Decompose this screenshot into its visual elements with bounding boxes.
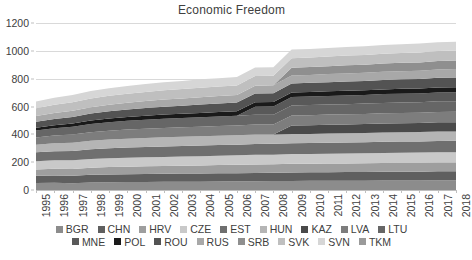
- legend-label-tkm: TKM: [369, 237, 391, 248]
- legend-label-ltu: LTU: [388, 224, 407, 235]
- x-tick-label-2008: 2008: [277, 194, 289, 217]
- x-tick-mark-2016: [419, 190, 420, 193]
- stacked-area-series: [36, 23, 456, 190]
- legend-row-1: BGRCHNHRVCZEESTHUNKAZLVALTU: [56, 224, 407, 235]
- x-tick-mark-2004: [200, 190, 201, 193]
- x-tick-mark-1998: [91, 190, 92, 193]
- legend-swatch-icon-cze: [180, 226, 187, 233]
- x-tick-label-2007: 2007: [259, 194, 271, 217]
- legend-swatch-icon-kaz: [301, 226, 308, 233]
- x-tick-label-2006: 2006: [241, 194, 253, 217]
- x-tick-mark-1995: [36, 190, 37, 193]
- x-tick-label-2013: 2013: [369, 194, 381, 217]
- legend-item-srb[interactable]: SRB: [238, 237, 270, 248]
- x-tick-label-1998: 1998: [95, 194, 107, 217]
- y-tick-label-0: 0: [23, 184, 29, 196]
- y-tick-label-1000: 1000: [6, 45, 29, 57]
- x-tick-label-1996: 1996: [58, 194, 70, 217]
- y-tick-mark-200: [31, 162, 34, 163]
- legend-item-est[interactable]: EST: [220, 224, 250, 235]
- x-tick-mark-2009: [292, 190, 293, 193]
- x-tick-label-2009: 2009: [296, 194, 308, 217]
- legend-item-rus[interactable]: RUS: [197, 237, 229, 248]
- legend-item-pol[interactable]: POL: [114, 237, 145, 248]
- legend-item-mne[interactable]: MNE: [72, 237, 105, 248]
- legend-item-cze[interactable]: CZE: [180, 224, 211, 235]
- x-tick-label-2005: 2005: [223, 194, 235, 217]
- legend-item-rou[interactable]: ROU: [154, 237, 187, 248]
- plot-area: [36, 23, 456, 190]
- y-axis: 020040060080010001200: [0, 23, 34, 190]
- legend-row-2: MNEPOLROURUSSRBSVKSVNTKM: [72, 237, 391, 248]
- x-tick-mark-2015: [401, 190, 402, 193]
- legend-swatch-icon-hun: [260, 226, 267, 233]
- x-tick-label-2001: 2001: [150, 194, 162, 217]
- y-tick-mark-0: [31, 190, 34, 191]
- legend-item-chn[interactable]: CHN: [98, 224, 131, 235]
- legend-swatch-icon-chn: [98, 226, 105, 233]
- legend-item-tkm[interactable]: TKM: [359, 237, 391, 248]
- x-tick-mark-2011: [328, 190, 329, 193]
- x-tick-label-2018: 2018: [460, 194, 472, 217]
- x-tick-mark-2012: [346, 190, 347, 193]
- legend-label-chn: CHN: [108, 224, 131, 235]
- legend-item-svn[interactable]: SVN: [318, 237, 350, 248]
- x-tick-label-1997: 1997: [77, 194, 89, 217]
- x-tick-label-2010: 2010: [314, 194, 326, 217]
- legend-item-bgr[interactable]: BGR: [56, 224, 89, 235]
- legend-swatch-icon-mne: [72, 238, 79, 245]
- x-tick-label-2004: 2004: [204, 194, 216, 217]
- y-tick-mark-1200: [31, 23, 34, 24]
- legend-label-cze: CZE: [190, 224, 211, 235]
- y-tick-mark-400: [31, 134, 34, 135]
- x-tick-mark-2003: [182, 190, 183, 193]
- y-tick-label-200: 200: [11, 156, 29, 168]
- x-tick-label-2012: 2012: [350, 194, 362, 217]
- x-tick-label-1995: 1995: [40, 194, 52, 217]
- x-tick-label-2016: 2016: [423, 194, 435, 217]
- legend-item-svk[interactable]: SVK: [278, 237, 309, 248]
- x-tick-mark-2006: [237, 190, 238, 193]
- x-tick-mark-2014: [383, 190, 384, 193]
- x-tick-mark-2001: [146, 190, 147, 193]
- legend-label-svk: SVK: [288, 237, 309, 248]
- chart-legend: BGRCHNHRVCZEESTHUNKAZLVALTUMNEPOLROURUSS…: [0, 224, 463, 247]
- x-tick-mark-2008: [273, 190, 274, 193]
- x-tick-mark-2018: [456, 190, 457, 193]
- legend-item-hrv[interactable]: HRV: [139, 224, 171, 235]
- x-axis: 1995199619971998199920002001200220032004…: [36, 190, 456, 223]
- legend-item-hun[interactable]: HUN: [260, 224, 293, 235]
- x-tick-mark-1996: [54, 190, 55, 193]
- y-tick-label-400: 400: [11, 128, 29, 140]
- legend-swatch-icon-pol: [114, 238, 121, 245]
- x-tick-label-2011: 2011: [332, 194, 344, 217]
- legend-label-lva: LVA: [351, 224, 369, 235]
- y-tick-label-800: 800: [11, 73, 29, 85]
- legend-label-srb: SRB: [248, 237, 270, 248]
- legend-swatch-icon-ltu: [378, 226, 385, 233]
- legend-label-hun: HUN: [270, 224, 293, 235]
- x-tick-label-2002: 2002: [168, 194, 180, 217]
- legend-swatch-icon-lva: [341, 226, 348, 233]
- legend-label-svn: SVN: [328, 237, 350, 248]
- y-tick-label-600: 600: [11, 101, 29, 113]
- legend-label-hrv: HRV: [149, 224, 171, 235]
- x-tick-mark-2010: [310, 190, 311, 193]
- legend-swatch-icon-est: [220, 226, 227, 233]
- legend-label-kaz: KAZ: [311, 224, 331, 235]
- legend-label-pol: POL: [124, 237, 145, 248]
- legend-label-bgr: BGR: [66, 224, 89, 235]
- legend-swatch-icon-svk: [278, 238, 285, 245]
- x-tick-label-2000: 2000: [131, 194, 143, 217]
- legend-label-rou: ROU: [164, 237, 187, 248]
- legend-item-kaz[interactable]: KAZ: [301, 224, 331, 235]
- chart-title: Economic Freedom: [0, 3, 463, 17]
- legend-item-ltu[interactable]: LTU: [378, 224, 407, 235]
- y-tick-mark-800: [31, 78, 34, 79]
- y-tick-mark-1000: [31, 50, 34, 51]
- x-tick-mark-2017: [438, 190, 439, 193]
- legend-label-est: EST: [230, 224, 250, 235]
- x-tick-mark-2005: [219, 190, 220, 193]
- legend-item-lva[interactable]: LVA: [341, 224, 369, 235]
